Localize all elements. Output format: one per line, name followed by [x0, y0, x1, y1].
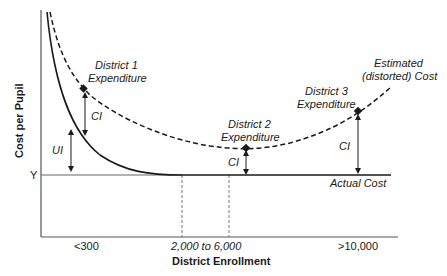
x-tick-large: >10,000: [338, 240, 378, 252]
x-tick-mid: 2,000 to 6,000: [170, 240, 242, 252]
ci-label-3: CI: [339, 140, 350, 152]
district-2-label-2: Expenditure: [221, 131, 280, 143]
ui-label: UI: [52, 144, 63, 156]
district-2-point: [242, 144, 250, 152]
district-1-label-2: Expenditure: [88, 72, 147, 84]
district-1-label-1: District 1: [95, 59, 138, 71]
x-axis-label: District Enrollment: [172, 255, 271, 267]
x-tick-small: <300: [74, 240, 99, 252]
district-3-label-2: Expenditure: [297, 98, 356, 110]
cost-per-pupil-diagram: Cost per Pupil Y <300 2,000 to 6,000 >10…: [0, 0, 447, 276]
district-2-label-1: District 2: [228, 118, 271, 130]
ci-label-1: CI: [91, 110, 102, 122]
ci-label-2: CI: [228, 156, 239, 168]
diagram-canvas: Cost per Pupil Y <300 2,000 to 6,000 >10…: [0, 0, 447, 276]
district-3-label-1: District 3: [305, 85, 349, 97]
y-level-label: Y: [30, 169, 38, 181]
estimated-cost-label-1: Estimated: [374, 57, 424, 69]
estimated-cost-label-2: (distorted) Cost: [362, 70, 438, 82]
actual-cost-label: Actual Cost: [329, 177, 387, 189]
y-axis-label: Cost per Pupil: [13, 83, 25, 158]
